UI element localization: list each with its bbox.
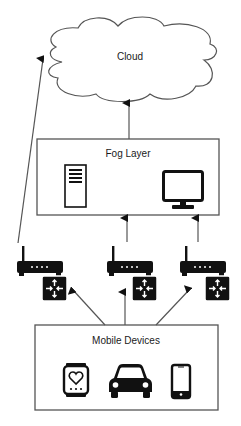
edge-mobile-to-gateway-right (156, 290, 189, 325)
diagram-canvas (0, 0, 241, 426)
mobile-devices-label: Mobile Devices (76, 335, 176, 346)
server-tower-icon (65, 165, 86, 207)
gateway-left (17, 246, 67, 301)
wireless-router-icon (107, 246, 153, 276)
smartphone-icon (172, 365, 190, 398)
car-icon (109, 364, 152, 398)
wireless-router-icon (17, 246, 63, 276)
wireless-router-icon (180, 246, 226, 276)
network-switch-icon (42, 276, 67, 301)
gateway-middle (107, 246, 157, 301)
network-switch-icon (132, 276, 157, 301)
smartwatch-heart-icon (64, 363, 88, 397)
gateway-right (180, 246, 230, 301)
fog-layer-label: Fog Layer (88, 148, 168, 159)
edge-mobile-to-gateway-left (73, 290, 105, 325)
cloud-label: Cloud (100, 51, 160, 62)
network-switch-icon (205, 276, 230, 301)
monitor-icon (164, 172, 203, 210)
